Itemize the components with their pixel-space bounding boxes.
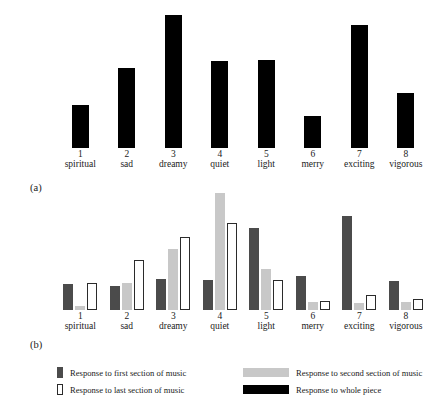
figure-root: 1spiritual2sad3dreamy4quiet5light6merry7… — [0, 0, 435, 413]
legend-swatch-second — [243, 368, 289, 377]
x-tick-merry: 6merry — [290, 150, 337, 170]
bar-group — [57, 186, 104, 310]
bar-first-merry — [296, 276, 306, 310]
panel-a-plot-area — [57, 14, 429, 148]
legend-label: Response to second section of music — [296, 368, 422, 378]
legend-item-last: Response to last section of music — [57, 384, 243, 395]
x-tick-dreamy: 3dreamy — [150, 150, 197, 170]
legend-swatch-first — [57, 367, 63, 378]
x-tick-name: exciting — [336, 160, 383, 170]
legend-label: Response to first section of music — [70, 368, 186, 378]
panel-b-plot-area — [57, 186, 429, 310]
x-tick-name: sad — [104, 322, 151, 332]
bar-last-merry — [320, 301, 330, 310]
bar-first-exciting — [342, 216, 352, 310]
x-tick-name: vigorous — [383, 322, 430, 332]
x-tick-sad: 2sad — [104, 312, 151, 332]
x-tick-spiritual: 1spiritual — [57, 150, 104, 170]
x-tick-dreamy: 3dreamy — [150, 312, 197, 332]
x-tick-name: spiritual — [57, 322, 104, 332]
x-tick-name: dreamy — [150, 322, 197, 332]
x-tick-name: light — [243, 160, 290, 170]
bar-group — [150, 186, 197, 310]
bar-group — [290, 186, 337, 310]
chart-panel-b: 1spiritual2sad3dreamy4quiet5light6merry7… — [57, 186, 429, 341]
bar-second-quiet — [215, 193, 225, 310]
bar-last-spiritual — [87, 283, 97, 310]
bar-last-sad — [134, 260, 144, 310]
bar-group — [336, 186, 383, 310]
x-tick-vigorous: 8vigorous — [383, 312, 430, 332]
legend-item-whole: Response to whole piece — [243, 385, 429, 395]
panel-b-x-axis-labels: 1spiritual2sad3dreamy4quiet5light6merry7… — [57, 312, 429, 332]
bar-last-vigorous — [413, 299, 423, 310]
bar-whole-spiritual — [72, 105, 89, 148]
legend-label: Response to whole piece — [296, 385, 381, 395]
bar-group — [197, 14, 244, 148]
bar-first-vigorous — [389, 281, 399, 310]
bar-last-exciting — [366, 295, 376, 310]
bar-last-quiet — [227, 223, 237, 310]
bar-last-light — [273, 280, 283, 310]
panel-b-caption: (b) — [30, 339, 42, 350]
x-tick-name: sad — [104, 160, 151, 170]
bar-first-dreamy — [156, 279, 166, 310]
panel-a-x-axis-labels: 1spiritual2sad3dreamy4quiet5light6merry7… — [57, 150, 429, 170]
bar-last-dreamy — [180, 237, 190, 310]
x-tick-spiritual: 1spiritual — [57, 312, 104, 332]
bar-whole-light — [258, 60, 275, 148]
x-tick-quiet: 4quiet — [197, 150, 244, 170]
bar-first-spiritual — [63, 284, 73, 310]
chart-panel-a: 1spiritual2sad3dreamy4quiet5light6merry7… — [57, 14, 429, 184]
bar-group — [104, 186, 151, 310]
bar-whole-sad — [118, 68, 135, 148]
bar-whole-quiet — [211, 61, 228, 148]
chart-legend: Response to first section of musicRespon… — [57, 364, 429, 398]
legend-label: Response to last section of music — [70, 385, 184, 395]
bar-whole-vigorous — [397, 93, 414, 148]
legend-swatch-whole — [243, 385, 289, 394]
bar-second-light — [261, 269, 271, 310]
legend-item-second: Response to second section of music — [243, 368, 429, 378]
bar-second-merry — [308, 302, 318, 310]
bar-whole-exciting — [351, 25, 368, 148]
bar-second-dreamy — [168, 249, 178, 311]
x-tick-exciting: 7exciting — [336, 150, 383, 170]
legend-item-first: Response to first section of music — [57, 367, 243, 378]
bar-second-vigorous — [401, 302, 411, 310]
bar-first-quiet — [203, 280, 213, 310]
x-tick-sad: 2sad — [104, 150, 151, 170]
bar-group — [243, 14, 290, 148]
bar-group — [383, 186, 430, 310]
x-tick-name: merry — [290, 160, 337, 170]
x-tick-name: quiet — [197, 322, 244, 332]
bar-group — [336, 14, 383, 148]
bar-group — [57, 14, 104, 148]
bar-second-spiritual — [75, 306, 85, 310]
x-tick-name: spiritual — [57, 160, 104, 170]
legend-swatch-last — [57, 384, 63, 395]
x-tick-name: exciting — [336, 322, 383, 332]
x-tick-light: 5light — [243, 312, 290, 332]
bar-first-sad — [110, 286, 120, 310]
x-tick-name: quiet — [197, 160, 244, 170]
x-tick-exciting: 7exciting — [336, 312, 383, 332]
x-tick-name: merry — [290, 322, 337, 332]
x-tick-vigorous: 8vigorous — [383, 150, 430, 170]
bar-second-exciting — [354, 303, 364, 310]
x-tick-light: 5light — [243, 150, 290, 170]
bar-whole-merry — [304, 116, 321, 148]
bar-whole-dreamy — [165, 15, 182, 148]
x-tick-name: dreamy — [150, 160, 197, 170]
bar-group — [104, 14, 151, 148]
bar-group — [243, 186, 290, 310]
x-tick-name: light — [243, 322, 290, 332]
bar-group — [197, 186, 244, 310]
x-tick-merry: 6merry — [290, 312, 337, 332]
x-tick-name: vigorous — [383, 160, 430, 170]
bar-first-light — [249, 228, 259, 310]
bar-group — [150, 14, 197, 148]
x-tick-quiet: 4quiet — [197, 312, 244, 332]
bar-group — [383, 14, 430, 148]
bar-second-sad — [122, 283, 132, 310]
